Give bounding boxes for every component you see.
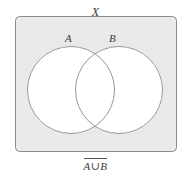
figure-caption: A∪B <box>0 158 191 173</box>
set-a-label: A <box>65 33 72 44</box>
venn-diagram-figure: X A B A∪B <box>0 0 191 176</box>
universe-shaded-region <box>16 17 177 152</box>
universe-label: X <box>0 6 191 18</box>
caption-expression: A∪B <box>84 158 108 173</box>
set-b-label: B <box>109 33 116 44</box>
venn-diagram-canvas <box>0 0 191 176</box>
